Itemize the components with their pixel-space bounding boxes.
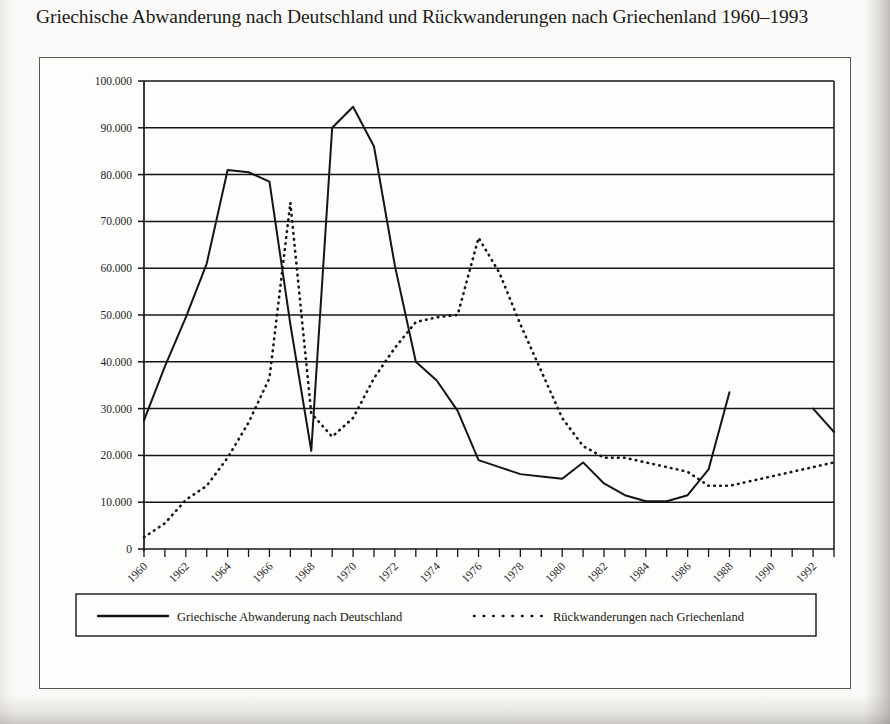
legend-label-0: Griechische Abwanderung nach Deutschland <box>177 610 403 624</box>
x-axis-tick-label: 1968 <box>292 560 317 585</box>
x-axis-tick-label: 1972 <box>376 560 401 585</box>
page-edge-shadow-bottom <box>0 694 890 724</box>
x-axis-tick-label: 1984 <box>626 560 651 585</box>
y-axis-tick-label: 10.000 <box>100 496 132 508</box>
x-axis-tick-label: 1990 <box>752 560 777 585</box>
scanned-page: Griechische Abwanderung nach Deutschland… <box>0 0 890 724</box>
y-axis-tick-label: 70.000 <box>100 215 132 227</box>
y-axis-tick-label: 40.000 <box>100 356 132 368</box>
y-axis-tick-label: 60.000 <box>100 262 132 274</box>
x-axis-tick-label: 1964 <box>208 560 233 585</box>
x-axis-tick-label: 1966 <box>250 560 275 585</box>
x-axis-tick-label: 1974 <box>417 560 442 585</box>
series-line-0 <box>813 409 834 432</box>
x-axis-tick-label: 1992 <box>794 560 819 585</box>
y-axis-tick-label: 80.000 <box>100 169 132 181</box>
y-axis-tick-label: 90.000 <box>100 122 132 134</box>
y-axis-tick-label: 100.000 <box>95 75 133 87</box>
series-line-0 <box>144 107 729 502</box>
x-axis-tick-label: 1978 <box>501 560 526 585</box>
x-axis-tick-label: 1988 <box>710 560 735 585</box>
figure-caption: Griechische Abwanderung nach Deutschland… <box>36 4 866 29</box>
line-chart: 010.00020.00030.00040.00050.00060.00070.… <box>40 58 852 690</box>
page-edge-shadow-right <box>864 0 890 724</box>
page-edge-shadow-left <box>0 0 14 724</box>
x-axis-tick-label: 1960 <box>125 560 150 585</box>
series-line-1 <box>144 203 834 538</box>
legend-label-1: Rückwanderungen nach Griechenland <box>553 610 745 624</box>
y-axis-tick-label: 50.000 <box>100 309 132 321</box>
x-axis-tick-label: 1970 <box>334 560 359 585</box>
y-axis-tick-label: 0 <box>126 543 132 555</box>
x-axis-tick-label: 1986 <box>668 560 693 585</box>
y-axis-tick-label: 30.000 <box>100 403 132 415</box>
x-axis-tick-label: 1982 <box>585 560 610 585</box>
x-axis-tick-label: 1962 <box>166 560 191 585</box>
figure-frame: 010.00020.00030.00040.00050.00060.00070.… <box>39 57 851 689</box>
y-axis-tick-label: 20.000 <box>100 449 132 461</box>
x-axis-tick-label: 1976 <box>459 560 484 585</box>
x-axis-tick-label: 1980 <box>543 560 568 585</box>
chart-area: 010.00020.00030.00040.00050.00060.00070.… <box>40 58 852 690</box>
